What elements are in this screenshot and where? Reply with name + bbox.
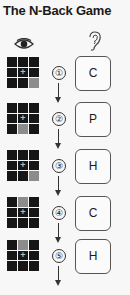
spatial-grid <box>7 150 40 181</box>
arrow-down-icon <box>58 176 59 192</box>
grid-cell <box>7 197 17 207</box>
ear-icon <box>86 31 102 51</box>
highlighted-cell <box>18 124 28 134</box>
grid-cell <box>7 150 17 160</box>
grid-cell <box>7 161 17 171</box>
fixation-cell <box>18 68 28 78</box>
spatial-grid <box>7 240 40 271</box>
spatial-grid <box>7 197 40 228</box>
arrow-down-icon <box>58 223 59 239</box>
highlighted-cell <box>29 78 39 88</box>
fixation-cell <box>18 251 28 261</box>
grid-cell <box>7 218 17 228</box>
step-number: ⑤ <box>52 249 66 263</box>
grid-cell <box>7 57 17 67</box>
step-number: ③ <box>52 159 66 173</box>
step-number: ① <box>52 66 66 80</box>
step-row: ⑤ H <box>0 240 130 286</box>
arrow-down-icon <box>58 129 59 145</box>
step-number: ② <box>52 112 66 126</box>
grid-cell <box>29 68 39 78</box>
spatial-grid <box>7 57 40 88</box>
letter-box: H <box>75 239 111 274</box>
step-number: ④ <box>52 206 66 220</box>
grid-cell <box>7 251 17 261</box>
grid-cell <box>29 251 39 261</box>
grid-cell <box>7 68 17 78</box>
step-row: ① C <box>0 57 130 103</box>
grid-cell <box>7 261 17 271</box>
grid-cell <box>7 103 17 113</box>
grid-cell <box>18 218 28 228</box>
grid-cell <box>29 208 39 218</box>
grid-cell <box>29 218 39 228</box>
fixation-cell <box>18 114 28 124</box>
page-title: The N-Back Game <box>3 3 111 18</box>
grid-cell <box>29 103 39 113</box>
grid-cell <box>7 171 17 181</box>
grid-cell <box>29 240 39 250</box>
grid-cell <box>18 78 28 88</box>
spatial-grid <box>7 103 40 134</box>
grid-cell <box>7 208 17 218</box>
grid-cell <box>29 261 39 271</box>
fixation-cell <box>18 208 28 218</box>
letter-box: H <box>75 149 111 184</box>
grid-cell <box>29 57 39 67</box>
grid-cell <box>18 171 28 181</box>
step-row: ③ H <box>0 150 130 196</box>
step-row: ④ C <box>0 197 130 243</box>
eye-icon <box>14 38 34 50</box>
grid-cell <box>29 161 39 171</box>
arrow-down-icon <box>58 83 59 99</box>
letter-box: P <box>75 102 111 137</box>
grid-cell <box>18 261 28 271</box>
grid-cell <box>7 78 17 88</box>
arrow-down-icon <box>58 266 59 282</box>
grid-cell <box>29 114 39 124</box>
grid-cell <box>7 240 17 250</box>
letter-box: C <box>75 196 111 231</box>
highlighted-cell <box>29 171 39 181</box>
grid-cell <box>29 197 39 207</box>
grid-cell <box>7 124 17 134</box>
step-row: ② P <box>0 103 130 149</box>
grid-cell <box>7 114 17 124</box>
grid-cell <box>29 124 39 134</box>
grid-cell <box>29 150 39 160</box>
fixation-cell <box>18 161 28 171</box>
letter-box: C <box>75 56 111 91</box>
